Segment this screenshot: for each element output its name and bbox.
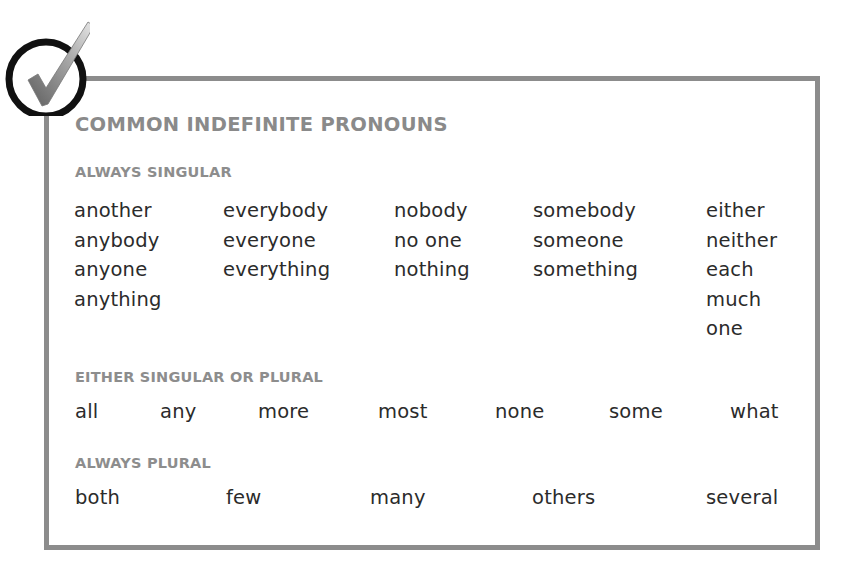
heading-always-singular: ALWAYS SINGULAR xyxy=(75,164,232,180)
page-title: COMMON INDEFINITE PRONOUNS xyxy=(75,113,448,136)
pronoun: both xyxy=(75,486,120,509)
pronoun: anybody xyxy=(74,226,162,256)
pronoun: several xyxy=(706,486,778,509)
checkmark-circle-icon xyxy=(2,16,90,116)
pronoun: some xyxy=(609,400,663,423)
pronoun: anything xyxy=(74,285,162,315)
pronoun: anyone xyxy=(74,255,162,285)
pronoun: something xyxy=(533,255,638,285)
pronoun: neither xyxy=(706,226,777,256)
pronoun: everybody xyxy=(223,196,330,226)
singular-column-2: everybody everyone everything xyxy=(223,196,330,285)
singular-column-4: somebody someone something xyxy=(533,196,638,285)
singular-column-5: either neither each much one xyxy=(706,196,777,344)
pronoun: others xyxy=(532,486,595,509)
heading-either-singular-or-plural: EITHER SINGULAR OR PLURAL xyxy=(75,369,323,385)
pronoun: each xyxy=(706,255,777,285)
singular-column-1: another anybody anyone anything xyxy=(74,196,162,314)
pronoun: everyone xyxy=(223,226,330,256)
pronoun: nobody xyxy=(394,196,470,226)
pronoun: everything xyxy=(223,255,330,285)
pronoun: all xyxy=(75,400,98,423)
singular-column-3: nobody no one nothing xyxy=(394,196,470,285)
pronoun: nothing xyxy=(394,255,470,285)
pronoun: none xyxy=(495,400,544,423)
pronoun: either xyxy=(706,196,777,226)
pronoun: no one xyxy=(394,226,470,256)
pronoun: any xyxy=(160,400,196,423)
pronoun: many xyxy=(370,486,426,509)
pronoun: somebody xyxy=(533,196,638,226)
pronoun: most xyxy=(378,400,428,423)
heading-always-plural: ALWAYS PLURAL xyxy=(75,455,211,471)
pronoun: one xyxy=(706,314,777,344)
pronoun: another xyxy=(74,196,162,226)
pronoun: few xyxy=(226,486,261,509)
pronoun: more xyxy=(258,400,309,423)
pronoun: someone xyxy=(533,226,638,256)
pronoun: what xyxy=(730,400,779,423)
pronoun: much xyxy=(706,285,777,315)
